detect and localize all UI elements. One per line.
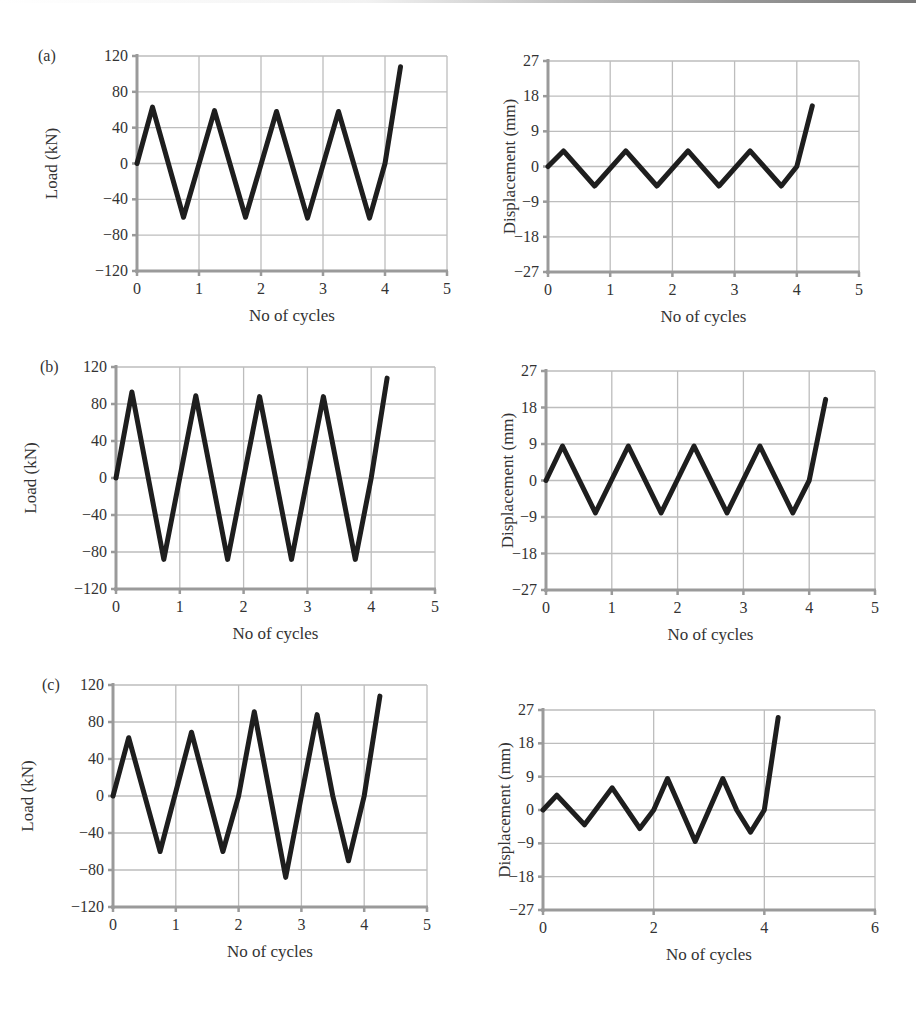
y-tick-label: −120 bbox=[74, 580, 107, 597]
y-axis-title: Load (kN) bbox=[18, 760, 37, 831]
x-axis-title: No of cycles bbox=[227, 942, 313, 961]
y-tick-label: 27 bbox=[518, 701, 534, 718]
x-tick-label: 0 bbox=[542, 599, 550, 616]
y-tick-label: −27 bbox=[512, 581, 537, 598]
panel-label: (a) bbox=[38, 47, 56, 65]
x-tick-labels: 012345 bbox=[544, 281, 863, 298]
x-tick-labels: 0246 bbox=[539, 919, 879, 936]
y-tick-label: 40 bbox=[91, 432, 107, 449]
x-tick-label: 2 bbox=[668, 281, 676, 298]
y-tick-label: 0 bbox=[96, 787, 104, 804]
y-tick-label: −27 bbox=[509, 901, 534, 918]
y-tick-label: 80 bbox=[112, 83, 128, 100]
x-tick-label: 0 bbox=[112, 598, 120, 615]
y-tick-label: −9 bbox=[520, 508, 537, 525]
x-tick-label: 0 bbox=[539, 919, 547, 936]
x-tick-label: 3 bbox=[319, 280, 327, 297]
y-tick-label: −80 bbox=[82, 543, 107, 560]
y-tick-label: 40 bbox=[88, 750, 104, 767]
chart-b-load: −120−80−4004080120012345No of cyclesLoad… bbox=[21, 358, 439, 643]
chart-b-disp: −27−18−9091827012345No of cyclesDisplace… bbox=[498, 362, 879, 644]
x-tick-label: 1 bbox=[608, 599, 616, 616]
y-tick-label: 120 bbox=[80, 676, 104, 693]
x-tick-label: 6 bbox=[871, 919, 879, 936]
y-tick-label: 9 bbox=[529, 435, 537, 452]
x-tick-label: 0 bbox=[109, 916, 117, 933]
y-tick-label: 80 bbox=[91, 395, 107, 412]
x-tick-label: 1 bbox=[195, 280, 203, 297]
x-tick-label: 5 bbox=[871, 599, 879, 616]
y-tick-label: 120 bbox=[83, 358, 107, 375]
x-tick-label: 3 bbox=[739, 599, 747, 616]
x-tick-labels: 012345 bbox=[542, 599, 879, 616]
figure-caption-cutoff bbox=[0, 1013, 916, 1017]
y-axis-title: Load (kN) bbox=[21, 442, 40, 513]
x-axis-title: No of cycles bbox=[233, 624, 319, 643]
y-tick-label: 27 bbox=[523, 52, 539, 69]
axes bbox=[108, 683, 428, 912]
y-tick-label: −9 bbox=[517, 834, 534, 851]
y-tick-label: −80 bbox=[79, 861, 104, 878]
y-tick-labels: −120−80−4004080120 bbox=[71, 676, 104, 915]
y-axis-title: Load (kN) bbox=[42, 128, 61, 199]
x-axis-title: No of cycles bbox=[661, 307, 747, 326]
y-tick-label: −120 bbox=[95, 262, 128, 279]
x-tick-label: 1 bbox=[176, 598, 184, 615]
y-tick-label: 27 bbox=[521, 362, 537, 379]
x-axis-title: No of cycles bbox=[666, 945, 752, 964]
panel-label: (c) bbox=[42, 676, 60, 694]
x-tick-label: 5 bbox=[423, 916, 431, 933]
y-axis-title: Displacement (mm) bbox=[500, 99, 519, 235]
y-tick-label: −80 bbox=[103, 226, 128, 243]
y-tick-label: −40 bbox=[82, 506, 107, 523]
chart-a-load: −120−80−4004080120012345No of cyclesLoad… bbox=[38, 47, 451, 325]
x-tick-label: 3 bbox=[731, 281, 739, 298]
y-tick-label: −40 bbox=[103, 190, 128, 207]
chart-a-disp: −27−18−9091827012345No of cyclesDisplace… bbox=[500, 52, 863, 326]
x-tick-label: 4 bbox=[360, 916, 368, 933]
x-tick-label: 2 bbox=[235, 916, 243, 933]
x-tick-label: 1 bbox=[172, 916, 180, 933]
y-tick-label: 18 bbox=[518, 734, 534, 751]
series-line-displacement bbox=[548, 106, 812, 186]
x-tick-label: 4 bbox=[793, 281, 801, 298]
figure-canvas: −120−80−4004080120012345No of cyclesLoad… bbox=[0, 0, 916, 1017]
series-line-displacement bbox=[543, 717, 778, 841]
y-tick-label: 120 bbox=[104, 47, 128, 64]
y-tick-label: 9 bbox=[526, 768, 534, 785]
series-line-load bbox=[137, 67, 401, 218]
x-tick-label: 5 bbox=[431, 598, 439, 615]
x-axis-title: No of cycles bbox=[249, 306, 335, 325]
x-tick-label: 4 bbox=[367, 598, 375, 615]
y-tick-labels: −120−80−4004080120 bbox=[95, 47, 128, 279]
y-tick-label: −27 bbox=[514, 263, 539, 280]
x-tick-labels: 012345 bbox=[133, 280, 451, 297]
x-tick-label: 1 bbox=[606, 281, 614, 298]
y-tick-label: 18 bbox=[523, 87, 539, 104]
y-tick-label: −40 bbox=[79, 824, 104, 841]
x-tick-label: 5 bbox=[443, 280, 451, 297]
series-line-load bbox=[113, 696, 380, 877]
x-tick-label: 5 bbox=[855, 281, 863, 298]
y-tick-label: 80 bbox=[88, 713, 104, 730]
x-tick-label: 2 bbox=[257, 280, 265, 297]
y-tick-label: −9 bbox=[522, 193, 539, 210]
x-tick-label: 3 bbox=[297, 916, 305, 933]
x-tick-labels: 012345 bbox=[109, 916, 431, 933]
y-tick-label: 0 bbox=[529, 472, 537, 489]
y-tick-label: 18 bbox=[521, 399, 537, 416]
chart-c-disp: −27−18−90918270246No of cyclesDisplaceme… bbox=[495, 701, 879, 964]
x-tick-label: 4 bbox=[760, 919, 768, 936]
x-tick-label: 3 bbox=[303, 598, 311, 615]
chart-c-load: −120−80−4004080120012345No of cyclesLoad… bbox=[18, 676, 431, 961]
y-tick-label: 9 bbox=[531, 122, 539, 139]
y-tick-label: 0 bbox=[120, 155, 128, 172]
y-axis-title: Displacement (mm) bbox=[495, 742, 514, 878]
panel-label: (b) bbox=[40, 358, 59, 376]
x-axis-title: No of cycles bbox=[668, 625, 754, 644]
y-tick-label: 0 bbox=[99, 469, 107, 486]
x-tick-label: 4 bbox=[381, 280, 389, 297]
x-tick-label: 2 bbox=[674, 599, 682, 616]
x-tick-label: 0 bbox=[544, 281, 552, 298]
y-tick-label: 40 bbox=[112, 119, 128, 136]
